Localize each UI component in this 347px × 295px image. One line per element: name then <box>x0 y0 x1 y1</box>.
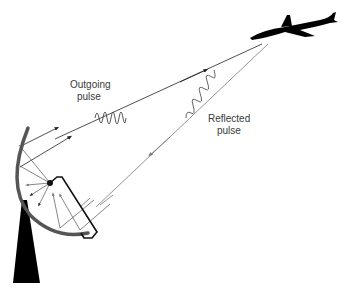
reflected-label-line2: pulse <box>217 125 241 136</box>
airplane-icon <box>250 12 338 40</box>
radar-diagram: Outgoing pulse Reflected pulse <box>0 0 347 295</box>
outgoing-label-line2: pulse <box>77 91 101 102</box>
reflected-label-line1: Reflected <box>208 113 250 124</box>
feed-point-icon <box>47 180 53 186</box>
outgoing-label-line1: Outgoing <box>70 79 111 90</box>
feed-horn <box>50 177 97 238</box>
outgoing-beam <box>20 44 262 167</box>
